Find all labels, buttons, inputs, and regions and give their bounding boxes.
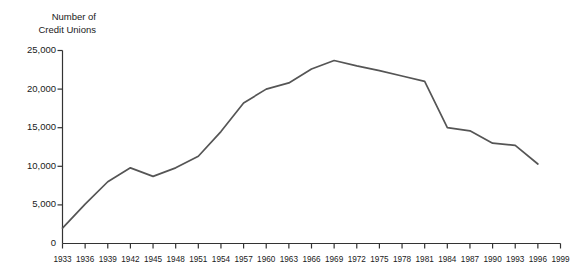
credit-unions-line-chart: Number ofCredit Unions 05,00010,00015,00… [0,0,583,276]
x-tick-label: 1999 [548,255,574,264]
data-series-line [63,61,538,229]
y-tick-label: 15,000 [0,121,56,132]
y-tick-label: 0 [0,237,56,248]
y-tick-label: 5,000 [0,198,56,209]
plot-canvas [0,0,583,276]
y-tick-label: 10,000 [0,160,56,171]
y-tick-label: 20,000 [0,83,56,94]
y-tick-label: 25,000 [0,44,56,55]
